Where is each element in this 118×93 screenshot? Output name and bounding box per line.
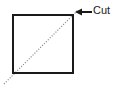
- cut-arrow-head-icon: [75, 9, 82, 16]
- cut-label: Cut: [93, 4, 110, 17]
- cut-diagram-figure: Cut: [0, 0, 118, 93]
- square-shape: [13, 15, 73, 73]
